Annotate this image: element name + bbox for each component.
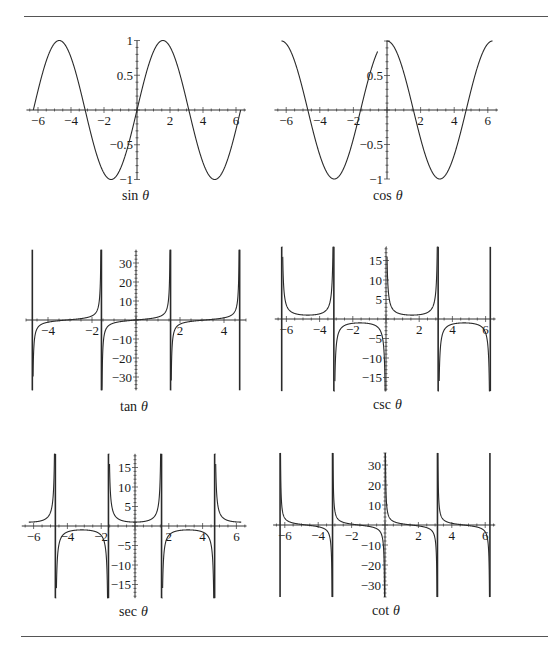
plot-cot: −6−4−2246302010−10−20−30 <box>273 453 495 597</box>
trig-plots-figure: −6−4−224610.5−0.5−1 −6−4−22460.5−0.5−1 −… <box>0 0 548 648</box>
y-tick-label: 15 <box>118 460 131 475</box>
x-tick-label: 4 <box>200 113 207 128</box>
caption-csc: cscθ <box>373 397 402 413</box>
y-tick-label: −20 <box>112 351 132 366</box>
x-tick-label: −2 <box>85 323 99 338</box>
x-tick-label: −4 <box>64 113 78 128</box>
x-tick-label: −6 <box>27 529 41 544</box>
x-tick-label: −2 <box>94 529 108 544</box>
y-tick-label: −1 <box>369 172 383 187</box>
x-tick-label: −4 <box>60 529 74 544</box>
x-tick-label: −6 <box>31 113 45 128</box>
y-tick-label: 10 <box>369 273 382 288</box>
caption-sec-var: θ <box>141 604 148 619</box>
x-tick-label: −6 <box>279 113 293 128</box>
caption-cot-fn: cot <box>372 603 389 618</box>
plot-sec: −6−4−224615105−5−10−15 <box>22 454 247 598</box>
caption-cos-fn: cos <box>373 188 392 203</box>
caption-tan: tanθ <box>120 399 148 415</box>
caption-sec-fn: sec <box>119 604 137 619</box>
y-tick-label: −1 <box>119 172 133 187</box>
caption-tan-var: θ <box>141 399 148 414</box>
caption-sec: secθ <box>119 604 148 620</box>
x-tick-label: 4 <box>449 528 456 543</box>
caption-cot: cotθ <box>372 603 400 619</box>
x-tick-label: −4 <box>311 528 325 543</box>
caption-cos-var: θ <box>396 188 403 203</box>
y-tick-label: −10 <box>112 332 132 347</box>
x-tick-label: 6 <box>233 529 240 544</box>
x-tick-label: −2 <box>345 528 359 543</box>
y-tick-label: 30 <box>119 256 132 271</box>
x-tick-label: −2 <box>97 113 111 128</box>
caption-cos: cosθ <box>373 188 403 204</box>
x-tick-label: 2 <box>416 322 423 337</box>
plot-sin: −6−4−224610.5−0.5−1 <box>26 33 245 187</box>
x-tick-label: 2 <box>166 529 173 544</box>
y-tick-label: 30 <box>368 458 381 473</box>
y-tick-label: −30 <box>112 370 132 385</box>
caption-sin-fn: sin <box>122 188 138 203</box>
x-tick-label: 2 <box>167 113 174 128</box>
caption-sin: sinθ <box>122 188 149 204</box>
x-tick-label: −4 <box>313 322 327 337</box>
caption-cot-var: θ <box>393 603 400 618</box>
y-tick-label: 20 <box>368 478 381 493</box>
y-tick-label: −20 <box>361 558 381 573</box>
y-tick-label: 5 <box>376 292 383 307</box>
y-tick-label: −0.5 <box>359 137 383 152</box>
x-tick-label: 4 <box>221 323 228 338</box>
x-tick-label: 2 <box>417 113 424 128</box>
y-tick-label: 5 <box>125 499 132 514</box>
y-tick-label: −10 <box>362 351 382 366</box>
y-tick-label: −30 <box>361 578 381 593</box>
plot-cos: −6−4−22460.5−0.5−1 <box>274 41 497 187</box>
y-tick-label: 10 <box>118 480 131 495</box>
y-tick-label: −10 <box>361 538 381 553</box>
y-tick-label: −5 <box>368 331 382 346</box>
y-tick-label: −5 <box>117 538 131 553</box>
caption-sin-var: θ <box>142 188 149 203</box>
y-tick-label: 1 <box>127 33 134 48</box>
caption-csc-fn: csc <box>373 397 391 412</box>
x-tick-label: 6 <box>485 113 492 128</box>
plot-csc: −6−4−224615105−5−10−15 <box>275 247 496 391</box>
caption-csc-var: θ <box>395 397 402 412</box>
plot-tan: −4−224302010−10−20−30 <box>26 250 246 391</box>
y-tick-label: 20 <box>119 275 132 290</box>
y-tick-label: 10 <box>368 498 381 513</box>
x-tick-label: −4 <box>41 323 55 338</box>
y-tick-label: −15 <box>362 370 382 385</box>
x-tick-label: 4 <box>451 113 458 128</box>
caption-tan-fn: tan <box>120 399 137 414</box>
y-tick-label: 0.5 <box>117 68 133 83</box>
y-tick-label: −15 <box>111 577 131 592</box>
y-tick-label: −10 <box>111 558 131 573</box>
y-tick-label: 15 <box>369 253 382 268</box>
x-tick-label: 2 <box>415 528 422 543</box>
x-tick-label: −4 <box>313 113 327 128</box>
y-tick-label: 10 <box>119 294 132 309</box>
